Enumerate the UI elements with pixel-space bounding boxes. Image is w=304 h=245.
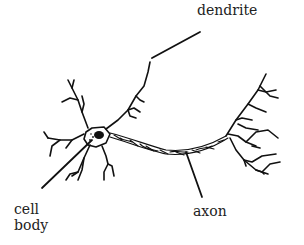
axon-shape — [110, 133, 228, 155]
dendrite-upper — [106, 62, 150, 129]
dendrite-label: dendrite — [197, 2, 257, 18]
nucleus — [94, 131, 104, 139]
axon-label: axon — [193, 203, 227, 219]
neuron-diagram: dendrite cell body axon — [0, 0, 304, 245]
cell-body-label: cell body — [14, 201, 48, 233]
dendrites-left — [44, 80, 114, 180]
leader-lines — [42, 32, 202, 197]
axon-terminals — [226, 74, 280, 174]
axon-leader-line — [186, 152, 202, 197]
dendrite-leader-line — [152, 32, 200, 58]
